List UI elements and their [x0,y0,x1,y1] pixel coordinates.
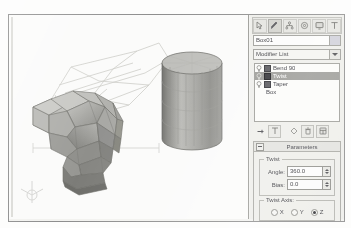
perspective-viewport[interactable] [9,15,249,219]
command-panel: Box01 Modifier List Bend 90 [250,15,344,219]
stack-item-label: Taper [273,80,288,88]
spinner-up-icon[interactable] [325,182,329,184]
bias-label: Bias: [272,181,285,189]
twist-axis-y-label: Y [300,208,304,216]
make-unique-button[interactable] [288,126,299,137]
stack-item-label: Box [266,88,276,96]
hierarchy-tab[interactable] [283,19,297,33]
chevron-down-icon[interactable] [330,49,341,60]
pencil-icon [270,21,279,30]
bias-row: Bias: 0.0 [263,179,331,190]
arrow-cursor-icon [255,21,264,30]
modifier-toggle-icon[interactable] [264,73,271,80]
bias-spinner[interactable]: 0.0 [287,179,331,190]
light-bulb-icon[interactable] [256,65,262,72]
show-end-result-icon [271,127,279,135]
modifier-list-row: Modifier List [253,49,341,60]
spinner-down-icon[interactable] [325,172,329,174]
axis-tripod-icon [17,175,47,209]
bias-spinner-arrows[interactable] [323,179,331,190]
twisted-bent-box-mesh[interactable] [27,77,149,199]
twist-group-label: Twist [264,156,282,163]
screenshot-page: Box01 Modifier List Bend 90 [0,0,351,228]
modifier-toggle-icon[interactable] [264,81,271,88]
modifier-list-dropdown[interactable]: Modifier List [253,49,330,60]
modifier-stack-toolbar [254,125,340,137]
radio-icon[interactable] [291,209,298,216]
pin-icon [256,127,265,136]
light-bulb-icon[interactable] [256,81,262,88]
angle-row: Angle: 360.0 [263,166,331,177]
remove-modifier-button[interactable] [301,125,314,138]
viewport-left-edge [11,17,13,217]
twist-axis-x-label: X [280,208,284,216]
modifier-stack-list[interactable]: Bend 90 Twist [254,63,340,122]
hierarchy-icon [285,21,294,30]
pin-stack-button[interactable] [255,126,266,137]
twist-axis-group-label: Twist Axis: [264,197,296,204]
twist-axis-z[interactable]: Z [311,208,324,216]
max-application-window: Box01 Modifier List Bend 90 [8,14,345,222]
command-panel-tabbar [252,17,342,34]
object-name-row: Box01 [253,35,341,46]
stack-item-taper[interactable]: Taper [255,80,339,88]
stack-item-bend[interactable]: Bend 90 [255,64,339,72]
stack-item-twist[interactable]: Twist [255,72,339,80]
light-bulb-icon[interactable] [256,73,262,80]
collapse-icon[interactable] [256,143,264,151]
object-color-swatch[interactable] [330,35,341,46]
cylinder-mesh[interactable] [157,47,227,159]
twist-axis-radios: X Y Z [263,207,331,217]
spinner-up-icon[interactable] [325,169,329,171]
modifier-gizmo-wireframe [37,33,187,143]
make-unique-icon [290,127,298,135]
twist-group: Twist Angle: 360.0 [259,159,335,196]
configure-modifier-sets-button[interactable] [316,125,329,138]
angle-spinner-arrows[interactable] [323,166,331,177]
create-tab[interactable] [253,19,267,33]
angle-label: Angle: [268,168,285,176]
stack-item-label: Bend 90 [273,64,295,72]
twist-axis-x[interactable]: X [271,208,284,216]
parameters-rollout: Parameters Twist Angle: 360.0 [253,141,341,222]
radio-icon-selected[interactable] [311,209,318,216]
show-end-result-button[interactable] [268,125,281,138]
bias-field[interactable]: 0.0 [287,179,323,190]
spinner-down-icon[interactable] [325,185,329,187]
stack-item-base-object[interactable]: Box [255,88,339,96]
motion-tab[interactable] [298,19,312,33]
radio-icon[interactable] [271,209,278,216]
parameters-rollout-body: Twist Angle: 360.0 [253,152,341,222]
stack-item-label: Twist [273,72,287,80]
modify-tab[interactable] [268,19,282,33]
twist-axis-y[interactable]: Y [291,208,304,216]
hammer-icon [330,21,339,30]
angle-field[interactable]: 360.0 [287,166,323,177]
object-name-field[interactable]: Box01 [253,35,330,46]
modifier-toggle-icon[interactable] [264,65,271,72]
twist-axis-group: Twist Axis: X Y [259,200,335,221]
configure-icon [319,127,327,135]
twist-axis-z-label: Z [320,208,324,216]
gizmo-center-marker [31,133,161,163]
parameters-rollout-header[interactable]: Parameters [253,141,341,152]
angle-spinner[interactable]: 360.0 [287,166,331,177]
utilities-tab[interactable] [327,19,341,33]
trash-icon [304,127,312,135]
display-tab[interactable] [312,19,326,33]
monitor-icon [315,21,324,30]
wheel-icon [300,21,309,30]
parameters-rollout-title: Parameters [266,143,338,151]
